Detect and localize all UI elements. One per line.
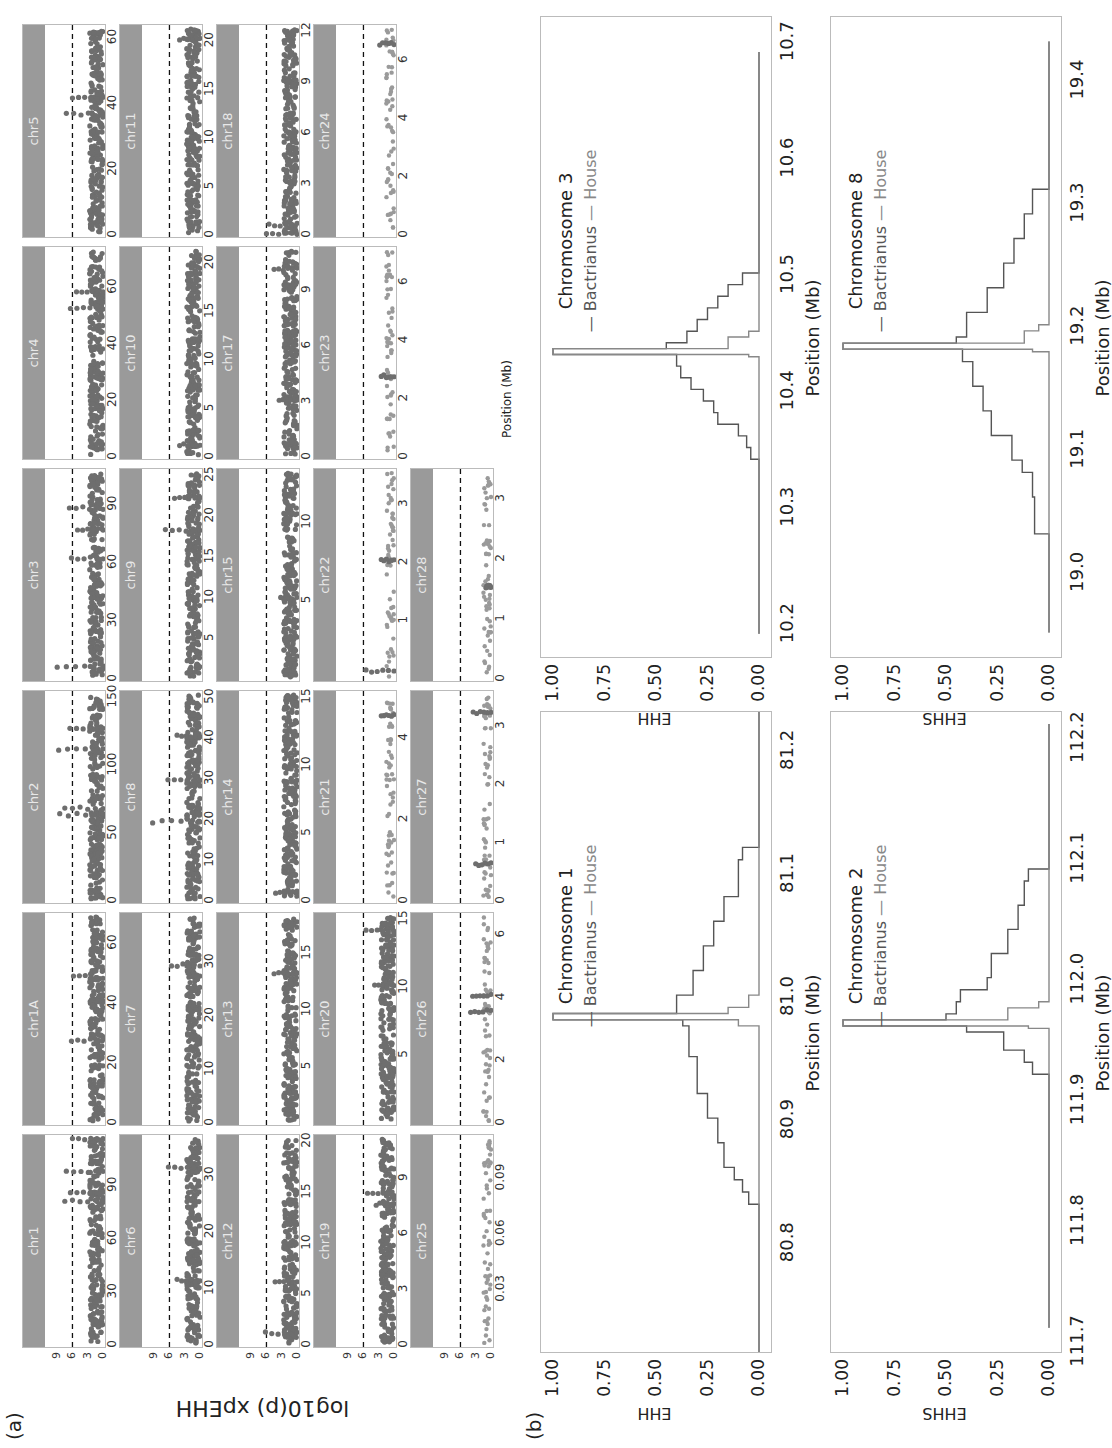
ehh-x-axis-label: Position (Mb) <box>802 18 823 658</box>
manhattan-plot-chr18: chr18 <box>216 24 300 238</box>
ehh-x-tick: 19.1 <box>1066 429 1087 469</box>
x-axis-ticks: 0204060 <box>105 26 119 238</box>
ehh-x-tick: 111.7 <box>1066 1315 1087 1367</box>
legend-house: — House <box>871 845 890 916</box>
chromosome-strip-label: chr26 <box>411 913 433 1125</box>
manhattan-plot-chr26: chr26 <box>410 912 494 1126</box>
legend-bactrianus: — Bactrianus <box>581 916 600 1027</box>
x-axis-ticks: 0204060 <box>105 914 119 1126</box>
chromosome-strip-label: chr3 <box>23 469 45 681</box>
chromosome-strip-label: chr8 <box>120 691 142 903</box>
chromosome-strip-label: chr17 <box>217 247 239 459</box>
x-axis-ticks: 0306090 <box>105 470 119 682</box>
ehh-y-tick: 0.25 <box>987 1359 1007 1403</box>
ehh-y-tick: 0.25 <box>987 664 1007 708</box>
x-axis-ticks: 0369 <box>396 1136 410 1348</box>
ehh-y-axis-label: EHH <box>625 1404 685 1423</box>
manhattan-plot-chr14: chr14 <box>216 690 300 904</box>
ehh-x-tick: 80.9 <box>776 1099 797 1139</box>
ehh-x-tick: 10.3 <box>776 487 797 527</box>
manhattan-plot-chr10: chr10 <box>119 246 203 460</box>
manhattan-plot-chr4: chr4 <box>22 246 106 460</box>
ehh-plot-chromosome-3: Chromosome 3— Bactrianus — House <box>540 16 772 658</box>
x-axis-ticks: 51015 <box>396 914 410 1126</box>
x-axis-ticks: 0123 <box>493 470 507 682</box>
ehh-legend: — Bactrianus — House <box>581 49 600 433</box>
y-axis-ticks: 0369 <box>432 1352 492 1370</box>
ehh-x-tick: 112.2 <box>1066 711 1087 763</box>
y-axis-ticks: 0369 <box>238 1352 298 1370</box>
ehh-x-tick: 81.1 <box>776 853 797 893</box>
chromosome-strip-label: chr28 <box>411 469 433 681</box>
x-axis-ticks: 024 <box>396 692 410 904</box>
chromosome-strip-label: chr23 <box>314 247 336 459</box>
ehh-legend: — Bactrianus — House <box>871 744 890 1128</box>
manhattan-plot-chr8: chr8 <box>119 690 203 904</box>
x-axis-ticks: 51015 <box>299 914 313 1126</box>
y-axis-ticks: 0369 <box>141 1352 201 1370</box>
manhattan-plot-chr28: chr28 <box>410 468 494 682</box>
legend-bactrianus: — Bactrianus <box>871 916 890 1027</box>
chromosome-strip-label: chr15 <box>217 469 239 681</box>
x-axis-ticks: 05101520 <box>202 248 216 460</box>
manhattan-plot-chr22: chr22 <box>313 468 397 682</box>
ehh-plot-title: Chromosome 1 <box>555 744 576 1128</box>
ehh-plot-chromosome-2: Chromosome 2— Bactrianus — House <box>830 711 1062 1353</box>
ehh-x-tick: 81.0 <box>776 976 797 1016</box>
manhattan-plot-chr1A: chr1A <box>22 912 106 1126</box>
y-axis-ticks: 0369 <box>44 1352 104 1370</box>
legend-bactrianus: — Bactrianus <box>581 221 600 332</box>
ehh-plot-chromosome-1: Chromosome 1— Bactrianus — House <box>540 711 772 1353</box>
ehh-x-tick: 10.7 <box>776 21 797 61</box>
manhattan-plot-chr19: chr19 <box>313 1134 397 1348</box>
x-axis-ticks: 0.030.060.09 <box>493 1136 507 1348</box>
ehh-x-axis-label: Position (Mb) <box>1092 713 1112 1353</box>
chromosome-strip-label: chr1A <box>23 913 45 1125</box>
chromosome-strip-label: chr10 <box>120 247 142 459</box>
chromosome-strip-label: chr1 <box>23 1135 45 1347</box>
chromosome-strip-label: chr6 <box>120 1135 142 1347</box>
ehh-y-tick: 1.00 <box>542 1359 562 1403</box>
ehh-y-tick: 1.00 <box>542 664 562 708</box>
ehh-x-tick: 10.4 <box>776 370 797 410</box>
x-axis-ticks: 050100150 <box>105 692 119 904</box>
ehh-x-tick: 81.2 <box>776 730 797 770</box>
chromosome-strip-label: chr14 <box>217 691 239 903</box>
x-axis-ticks: 0369 <box>299 248 313 460</box>
x-axis-ticks: 0102030 <box>202 914 216 1126</box>
manhattan-plot-chr24: chr24 <box>313 24 397 238</box>
chromosome-strip-label: chr2 <box>23 691 45 903</box>
ehh-x-tick: 111.8 <box>1066 1194 1087 1246</box>
manhattan-plot-chr27: chr27 <box>410 690 494 904</box>
ehh-y-tick: 1.00 <box>832 664 852 708</box>
ehh-y-tick: 0.25 <box>697 1359 717 1403</box>
ehh-x-tick: 111.9 <box>1066 1074 1087 1126</box>
ehh-plot-title: Chromosome 8 <box>845 49 866 433</box>
chromosome-strip-label: chr22 <box>314 469 336 681</box>
ehh-x-axis-label: Position (Mb) <box>1092 18 1112 658</box>
manhattan-plot-chr23: chr23 <box>313 246 397 460</box>
ehh-y-tick: 0.00 <box>1038 664 1058 708</box>
x-axis-ticks: 510152025 <box>202 470 216 682</box>
ehh-x-tick: 112.1 <box>1066 832 1087 884</box>
figure: (a) log10(p) xpEHH chr103690306090chr1A0… <box>0 0 1112 1448</box>
panel-a-y-axis-label: log10(p) xpEHH <box>163 1396 363 1421</box>
ehh-y-tick: 0.00 <box>748 664 768 708</box>
panel-a-x-axis-label: Position (Mb) <box>500 360 514 438</box>
panel-a-label: (a) <box>2 1412 26 1440</box>
ehh-x-axis-label: Position (Mb) <box>802 713 823 1353</box>
manhattan-plot-chr21: chr21 <box>313 690 397 904</box>
x-axis-ticks: 0102030 <box>202 1136 216 1348</box>
ehh-y-axis-label: EHHS <box>915 709 975 728</box>
ehh-x-tick: 19.0 <box>1066 552 1087 592</box>
x-axis-ticks: 0306090 <box>105 1136 119 1348</box>
panel-b-label: (b) <box>522 1412 546 1440</box>
chromosome-strip-label: chr20 <box>314 913 336 1125</box>
manhattan-plot-chr5: chr5 <box>22 24 106 238</box>
ehh-y-tick: 0.50 <box>645 1359 665 1403</box>
chromosome-strip-label: chr25 <box>411 1135 433 1347</box>
chromosome-strip-label: chr18 <box>217 25 239 237</box>
chromosome-strip-label: chr4 <box>23 247 45 459</box>
x-axis-ticks: 0246 <box>493 914 507 1126</box>
ehh-y-tick: 0.00 <box>1038 1359 1058 1403</box>
